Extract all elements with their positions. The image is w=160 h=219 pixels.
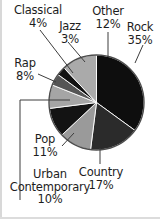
slice-label-urban-name-line1: Urban <box>33 167 67 181</box>
slice-label-country-pct: 17% <box>70 179 132 192</box>
slice-label-rock: Rock 35% <box>120 21 160 46</box>
slice-label-rock-name: Rock <box>127 20 154 34</box>
slice-label-country-name: Country <box>79 165 123 179</box>
slice-label-pop-name: Pop <box>35 132 55 146</box>
slice-label-rap: Rap 8% <box>7 57 43 82</box>
slice-label-other-name: Other <box>92 4 124 18</box>
pie-chart-figure: Classical 4% Jazz 3% Other 12% Rock 35% … <box>0 0 160 219</box>
slice-label-classical-name: Classical <box>14 3 62 17</box>
leader-rock <box>135 45 143 63</box>
slice-label-urban-pct: 10% <box>2 193 98 206</box>
slice-label-pop: Pop 11% <box>25 133 65 158</box>
slice-label-pop-pct: 11% <box>25 146 65 159</box>
slice-label-jazz-pct: 3% <box>48 33 92 46</box>
slice-label-rap-name: Rap <box>14 56 36 70</box>
slice-label-rap-pct: 8% <box>7 70 43 83</box>
slice-label-jazz-name: Jazz <box>59 19 81 33</box>
slice-label-country: Country 17% <box>70 166 132 191</box>
slice-label-rock-pct: 35% <box>120 34 160 47</box>
